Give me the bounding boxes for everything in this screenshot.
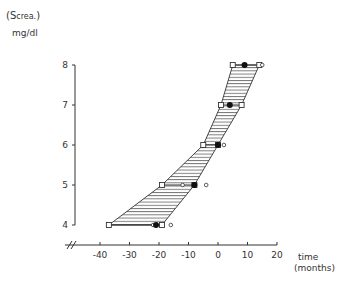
x-tick-label: -20 (152, 250, 167, 260)
open-square-marker (230, 63, 235, 68)
filled-dot-marker (215, 142, 221, 148)
x-tick-label: 0 (215, 250, 221, 260)
x-axis-label-line2: (months) (294, 263, 335, 273)
open-square-marker (159, 223, 164, 228)
x-tick-label: 20 (271, 250, 283, 260)
open-circle-marker (204, 183, 208, 187)
open-circle-marker (169, 223, 173, 227)
x-tick-label: -30 (122, 250, 137, 260)
x-axis-label-line1: time (298, 252, 318, 262)
chart-plot: 45678-40-30-20-1001020 (0, 0, 349, 287)
open-circle-marker (260, 63, 264, 67)
x-tick-label: 10 (242, 250, 254, 260)
y-tick-label: 8 (62, 60, 68, 70)
open-circle-marker (181, 183, 185, 187)
filled-dot-marker (242, 62, 248, 68)
open-square-marker (159, 183, 164, 188)
y-tick-label: 4 (62, 220, 68, 230)
y-tick-label: 5 (62, 180, 68, 190)
filled-dot-marker (153, 222, 159, 228)
y-tick-label: 6 (62, 140, 68, 150)
open-square-marker (201, 143, 206, 148)
filled-dot-marker (227, 102, 233, 108)
x-tick-label: -40 (93, 250, 108, 260)
open-square-marker (218, 103, 223, 108)
y-tick-label: 7 (62, 100, 68, 110)
x-tick-label: -10 (181, 250, 196, 260)
open-square-marker (239, 103, 244, 108)
hatched-band (109, 65, 259, 225)
open-square-marker (106, 223, 111, 228)
open-circle-marker (222, 143, 226, 147)
filled-dot-marker (191, 182, 197, 188)
